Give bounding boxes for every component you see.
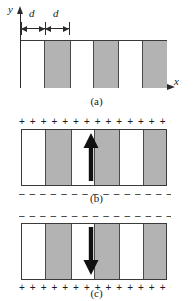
slab-array-a	[21, 40, 167, 88]
panel-a: d d y x (a)	[0, 0, 193, 110]
y-axis-label: y	[8, 4, 13, 15]
slab	[142, 41, 167, 88]
slab	[143, 224, 167, 279]
panel-c: – – – – – – – – – – – – – – – – – – – – …	[0, 206, 193, 301]
dim-label-second: d	[53, 8, 59, 19]
caption-b: (b)	[0, 193, 193, 204]
dim-arrow-right-1	[63, 26, 69, 32]
y-axis-arrowhead-icon	[17, 6, 23, 14]
physics-figure: d d y x (a) + + + + + + + + + + + + + + …	[0, 0, 193, 301]
slab	[143, 130, 167, 185]
slab	[93, 41, 119, 88]
dimension-band: d d	[0, 0, 193, 34]
panel-b: + + + + + + + + + + + + + + + + + + + + …	[0, 112, 193, 206]
polarization-arrow-up-icon	[83, 133, 99, 181]
x-axis-label: x	[174, 76, 179, 87]
top-charge-row-c: – – – – – – – – – – – – – – – – – – – –	[19, 210, 171, 221]
polarization-arrow-down-icon	[83, 227, 99, 275]
top-charge-row-b: + + + + + + + + + + + + + + + + + + + +	[19, 116, 171, 127]
slab	[45, 130, 71, 185]
dim-label-first: d	[29, 8, 35, 19]
caption-c: (c)	[0, 288, 193, 299]
caption-a: (a)	[0, 96, 193, 107]
slab	[45, 224, 71, 279]
dim-tick-2	[69, 22, 70, 35]
dim-arrow-left-1	[45, 26, 51, 32]
dim-arrow-left-0	[21, 26, 27, 32]
slab	[44, 41, 70, 88]
